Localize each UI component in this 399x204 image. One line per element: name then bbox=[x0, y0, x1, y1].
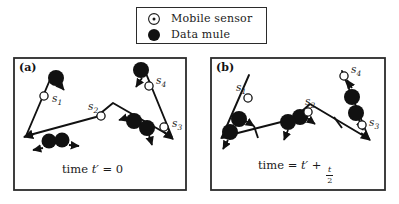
caption-b-fraction: t2 bbox=[326, 166, 333, 185]
data-mule-marker bbox=[222, 124, 238, 140]
figure-root: Mobile sensor Data mule bbox=[0, 0, 399, 204]
fraction-numerator: t bbox=[327, 166, 332, 174]
mobile-sensor-marker bbox=[160, 123, 168, 131]
data-mule-marker bbox=[344, 89, 360, 105]
data-mule-marker bbox=[133, 62, 149, 78]
data-mule-marker bbox=[231, 111, 247, 127]
caption-a-equals: = bbox=[99, 162, 116, 176]
data-mule-marker bbox=[139, 120, 155, 136]
mobile-sensor-marker bbox=[340, 72, 348, 80]
data-mule-marker bbox=[48, 70, 64, 86]
panel-a-caption: time t′ = 0 bbox=[62, 162, 123, 176]
caption-a-variable: t′ bbox=[92, 162, 99, 176]
caption-a-value: 0 bbox=[116, 162, 123, 176]
data-mule-marker bbox=[348, 105, 364, 121]
panel-a-tag: (a) bbox=[19, 61, 37, 74]
mobile-sensor-marker bbox=[358, 121, 366, 129]
mobile-sensor-marker bbox=[145, 82, 153, 90]
data-mule-marker bbox=[42, 134, 57, 149]
fraction-denominator: 2 bbox=[326, 177, 333, 185]
panel-b-caption: time = t′ + t2 bbox=[258, 158, 334, 185]
data-mule-marker bbox=[280, 114, 296, 130]
caption-b-plus: + bbox=[308, 158, 325, 172]
data-mule-marker bbox=[55, 133, 70, 148]
caption-b-prefix: time = bbox=[258, 158, 301, 172]
caption-a-prefix: time bbox=[62, 162, 92, 176]
sensor-mule-diagram: s1 s2 s3 s4 bbox=[0, 0, 399, 204]
mobile-sensor-marker bbox=[40, 92, 48, 100]
panel-b-tag: (b) bbox=[216, 61, 234, 74]
